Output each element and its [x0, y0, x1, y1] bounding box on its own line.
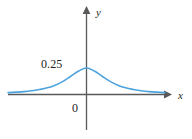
bell-curve-figure: y x 0.25 0 [0, 0, 192, 139]
x-axis-arrowhead-icon [164, 91, 172, 99]
origin-label: 0 [72, 102, 78, 114]
y-axis-label: y [96, 7, 101, 18]
y-axis-arrowhead-icon [83, 6, 91, 14]
peak-value-label: 0.25 [41, 58, 62, 70]
plot-canvas [0, 0, 192, 139]
x-axis-label: x [178, 90, 183, 101]
